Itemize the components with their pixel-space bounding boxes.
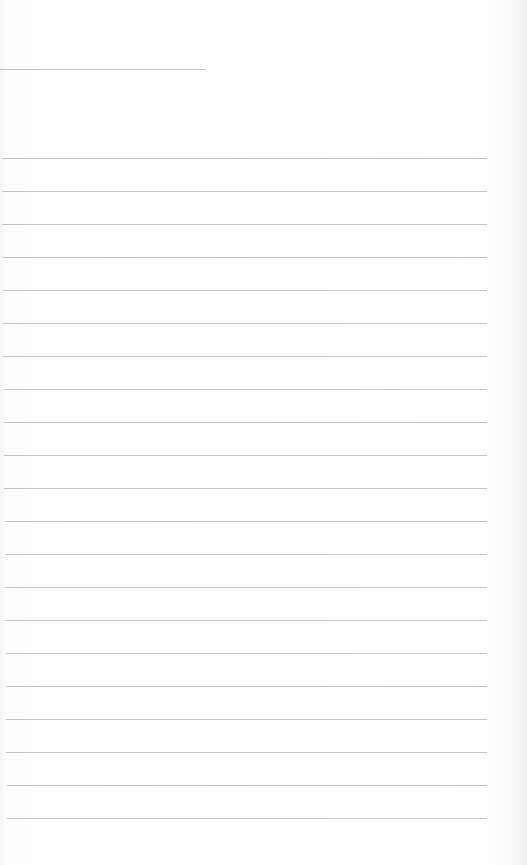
ruled-line [3,356,487,357]
page-edge-shadow [513,0,527,865]
ruled-line [3,323,487,324]
header-rule-line [0,69,206,70]
ruled-line [5,620,487,621]
ruled-line [4,422,487,423]
ruled-line [6,653,487,654]
ruled-line [7,818,487,819]
ruled-line [4,389,487,390]
ruled-line [6,686,487,687]
ruled-line [5,554,487,555]
ruled-line [4,488,487,489]
notepad-page [0,0,527,865]
ruled-line [5,587,487,588]
ruled-line [2,158,487,159]
ruled-line [2,191,487,192]
ruled-line [6,752,487,753]
ruled-line [2,224,487,225]
ruled-line [3,290,487,291]
ruled-line [6,719,487,720]
ruled-line [5,521,487,522]
ruled-line [7,785,487,786]
ruled-line [4,455,487,456]
ruled-line [3,257,487,258]
